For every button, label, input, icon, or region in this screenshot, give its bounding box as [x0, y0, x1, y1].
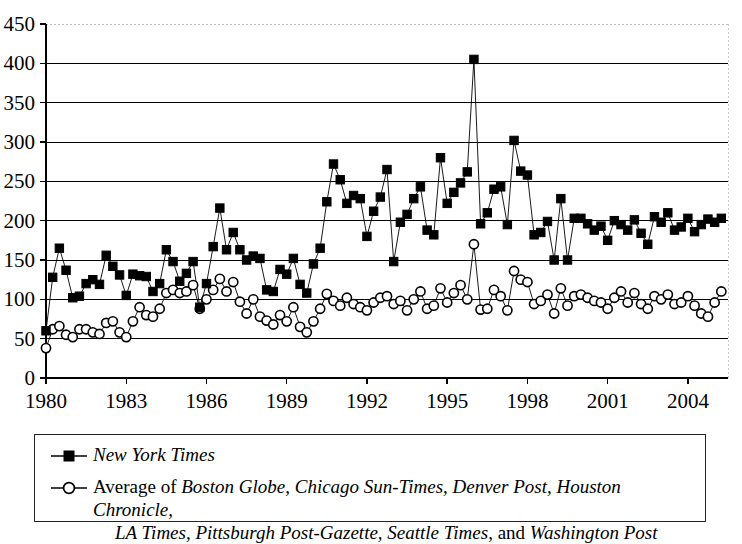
data-point-nyt	[430, 231, 438, 239]
data-point-nyt	[196, 303, 204, 311]
data-point-nyt	[463, 168, 471, 176]
data-point-nyt	[403, 210, 411, 218]
data-point-average	[550, 309, 559, 318]
data-point-average	[316, 304, 325, 313]
y-tick-label: 450	[4, 12, 36, 36]
data-point-average	[229, 277, 238, 286]
data-point-average	[289, 303, 298, 312]
data-point-average	[436, 284, 445, 293]
data-point-average	[623, 298, 632, 307]
x-tick-label: 1986	[185, 389, 227, 413]
data-point-average	[603, 304, 612, 313]
data-point-average	[402, 306, 411, 315]
data-point-average	[663, 290, 672, 299]
data-point-nyt	[256, 254, 264, 262]
x-tick-label: 1980	[25, 389, 67, 413]
data-point-average	[309, 317, 318, 326]
data-point-average	[509, 266, 518, 275]
data-point-average	[155, 304, 164, 313]
data-point-nyt	[75, 292, 83, 300]
data-point-nyt	[644, 240, 652, 248]
x-tick-label: 1983	[105, 389, 147, 413]
data-point-nyt	[42, 327, 50, 335]
data-point-average	[269, 320, 278, 329]
y-tick-label: 300	[4, 130, 36, 154]
data-point-nyt	[356, 194, 364, 202]
data-point-average	[55, 321, 64, 330]
legend-marker-open-circle-icon	[49, 477, 89, 499]
y-tick-label: 250	[4, 169, 36, 193]
data-point-nyt	[410, 194, 418, 202]
data-point-nyt	[115, 271, 123, 279]
y-tick-label: 0	[25, 366, 36, 390]
data-point-nyt	[637, 229, 645, 237]
data-point-nyt	[496, 183, 504, 191]
data-point-average	[543, 290, 552, 299]
y-tick-labels-group: 050100150200250300350400450	[4, 12, 36, 390]
data-point-nyt	[296, 280, 304, 288]
data-point-nyt	[109, 262, 117, 270]
x-tick-label: 2001	[587, 389, 629, 413]
y-tick-label: 200	[4, 209, 36, 233]
data-point-nyt	[470, 55, 478, 63]
data-point-nyt	[343, 199, 351, 207]
legend-average-line2: LA Times, Pittsburgh Post-Gazette, Seatt…	[93, 521, 697, 544]
data-point-average	[616, 287, 625, 296]
data-point-average	[429, 301, 438, 310]
data-point-nyt	[55, 244, 63, 252]
data-point-average	[302, 328, 311, 337]
y-tick-label: 50	[14, 327, 35, 351]
y-tick-label: 350	[4, 91, 36, 115]
data-point-nyt	[222, 246, 230, 254]
data-point-average	[683, 292, 692, 301]
data-point-nyt	[443, 199, 451, 207]
data-point-nyt	[416, 183, 424, 191]
data-point-nyt	[657, 218, 665, 226]
data-point-nyt	[717, 214, 725, 222]
data-point-average	[710, 298, 719, 307]
data-point-average	[690, 301, 699, 310]
legend-entry-average: Average of Boston Globe, Chicago Sun-Tim…	[49, 475, 697, 544]
tickmarks-group	[40, 24, 688, 384]
data-point-nyt	[142, 272, 150, 280]
data-point-nyt	[550, 256, 558, 264]
data-point-nyt	[182, 269, 190, 277]
data-point-nyt	[189, 257, 197, 265]
data-point-nyt	[155, 279, 163, 287]
data-point-nyt	[202, 279, 210, 287]
data-point-average	[135, 303, 144, 312]
data-point-nyt	[450, 188, 458, 196]
data-point-nyt	[329, 160, 337, 168]
x-tick-label: 1989	[266, 389, 308, 413]
data-point-nyt	[624, 226, 632, 234]
data-point-average	[449, 288, 458, 297]
legend-entry-nyt: New York Times	[49, 443, 215, 467]
x-tick-label: 1998	[506, 389, 548, 413]
data-point-nyt	[149, 287, 157, 295]
data-point-average	[416, 287, 425, 296]
data-point-nyt	[563, 256, 571, 264]
series-average-markers	[41, 240, 726, 353]
data-point-average	[282, 317, 291, 326]
data-point-average	[128, 317, 137, 326]
legend-average-papers-line2b: Washington Post	[530, 522, 658, 543]
data-point-average	[469, 240, 478, 249]
data-point-nyt	[557, 194, 565, 202]
data-point-nyt	[229, 228, 237, 236]
x-tick-label: 1995	[426, 389, 468, 413]
data-point-nyt	[389, 257, 397, 265]
data-point-average	[523, 277, 532, 286]
data-point-nyt	[476, 220, 484, 228]
data-point-nyt	[510, 136, 518, 144]
data-point-average	[563, 301, 572, 310]
data-point-nyt	[269, 287, 277, 295]
data-point-nyt	[216, 204, 224, 212]
data-point-nyt	[289, 254, 297, 262]
legend-label-nyt: New York Times	[93, 443, 215, 466]
data-point-nyt	[283, 270, 291, 278]
data-point-nyt	[664, 209, 672, 217]
data-point-nyt	[363, 232, 371, 240]
data-point-nyt	[162, 246, 170, 254]
data-point-average	[503, 306, 512, 315]
data-point-average	[496, 292, 505, 301]
